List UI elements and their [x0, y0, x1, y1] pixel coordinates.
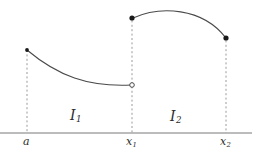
interval-label-I2-base: I	[170, 108, 176, 124]
interval-label-I1: I1	[70, 108, 81, 122]
tick-label-x2-subscript: 2	[226, 141, 230, 148]
tick-label-x2: x2	[220, 136, 231, 147]
interval-label-I2: I2	[170, 109, 181, 123]
figure-canvas	[0, 0, 253, 148]
point-x2-filled	[223, 35, 228, 40]
curve-interval-2	[133, 11, 226, 38]
tick-label-x1-subscript: 1	[132, 141, 136, 148]
tick-label-a-base: a	[23, 135, 30, 148]
tick-label-x1: x1	[126, 136, 137, 147]
point-x1-filled	[129, 15, 134, 20]
tick-label-a: a	[23, 136, 30, 147]
point-a-filled	[25, 48, 29, 52]
interval-label-I1-subscript: 1	[76, 114, 82, 124]
piecewise-function-figure: I1 I2 a x1 x2	[0, 0, 253, 148]
interval-label-I1-base: I	[70, 107, 76, 123]
curve-interval-1	[27, 50, 131, 85]
interval-label-I2-subscript: 2	[176, 115, 182, 125]
point-x1-open	[130, 83, 135, 88]
